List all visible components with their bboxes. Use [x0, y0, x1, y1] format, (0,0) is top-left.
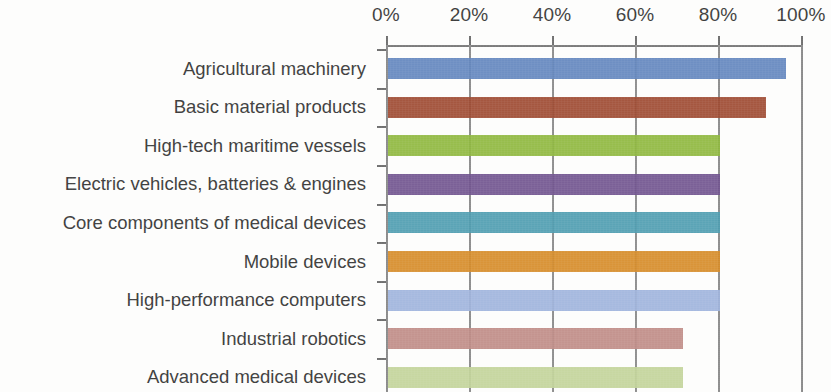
category-label: Industrial robotics: [221, 328, 366, 350]
y-axis-category-labels: Agricultural machineryBasic material pro…: [0, 45, 378, 392]
bar: [388, 367, 683, 388]
bar: [388, 212, 720, 233]
bar: [388, 58, 786, 79]
y-axis-tick: [377, 358, 386, 360]
y-axis-tick: [377, 204, 386, 206]
category-label: Agricultural machinery: [183, 58, 366, 80]
bar: [388, 251, 720, 272]
bar: [388, 174, 720, 195]
y-axis-tick: [377, 242, 386, 244]
category-label: Core components of medical devices: [63, 212, 366, 234]
x-tick-label: 0%: [372, 4, 400, 26]
bar: [388, 97, 766, 118]
x-tick-label: 80%: [699, 4, 738, 26]
x-axis-tick: [469, 36, 471, 45]
y-axis-tick: [377, 49, 386, 51]
category-label: Mobile devices: [244, 251, 366, 273]
x-tick-label: 40%: [533, 4, 572, 26]
category-label: Electric vehicles, batteries & engines: [65, 173, 366, 195]
y-axis-tick: [377, 126, 386, 128]
y-axis-tick: [377, 319, 386, 321]
x-tick-label: 20%: [450, 4, 489, 26]
category-label: Advanced medical devices: [147, 366, 366, 388]
x-axis-tick: [635, 36, 637, 45]
y-axis-tick: [377, 88, 386, 90]
bar: [388, 290, 720, 311]
x-tick-label: 60%: [616, 4, 655, 26]
category-label: Basic material products: [174, 96, 366, 118]
horizontal-bar-chart: 0%20%40%60%80%100% Agricultural machiner…: [0, 0, 831, 392]
y-axis-tick: [377, 165, 386, 167]
bar: [388, 328, 683, 349]
plot-area: [386, 45, 803, 392]
x-axis-tick-labels: 0%20%40%60%80%100%: [0, 4, 831, 30]
category-label: High-tech maritime vessels: [144, 135, 366, 157]
x-axis-tick: [801, 36, 803, 45]
plot-right-border: [801, 45, 803, 392]
x-axis-tick: [386, 36, 388, 45]
x-axis-tick: [552, 36, 554, 45]
plot-top-border: [386, 45, 803, 47]
x-axis-tick: [718, 36, 720, 45]
x-tick-label: 100%: [776, 4, 825, 26]
bar: [388, 135, 720, 156]
category-label: High-performance computers: [126, 289, 366, 311]
y-axis-tick: [377, 281, 386, 283]
